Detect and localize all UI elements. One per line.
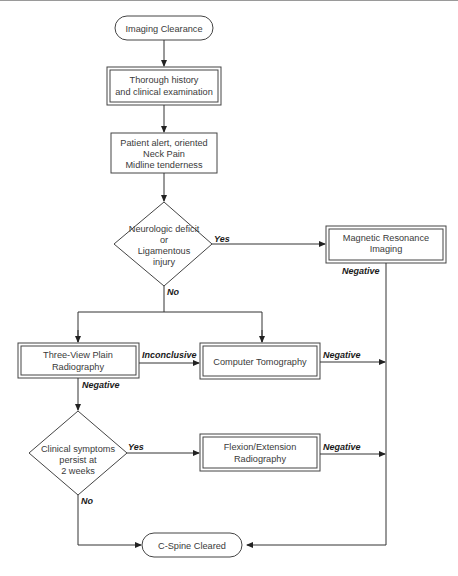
xray-node: Three-View Plain Radiography [18, 343, 139, 378]
decision2-node: Clinical symptoms persist at 2 weeks [29, 411, 127, 495]
ct-negative-label: Negative [323, 350, 361, 360]
decision2-line-1: Clinical symptoms [41, 444, 115, 454]
ct-label: Computer Tomography [213, 357, 307, 367]
decision1-line-3: Ligamentous [138, 246, 191, 256]
decision1-no-label: No [167, 287, 179, 297]
xray-line-1: Three-View Plain [43, 350, 113, 360]
history-node: Thorough history and clinical examinatio… [107, 67, 221, 105]
mri-node: Magnetic Resonance Imaging [326, 226, 446, 263]
xray-line-2: Radiography [52, 362, 105, 372]
edge-split-xray-ct [78, 312, 262, 342]
decision2-yes-label: Yes [128, 442, 144, 452]
mri-line-1: Magnetic Resonance [343, 233, 429, 243]
decision1-line-4: injury [153, 257, 175, 267]
mri-line-2: Imaging [370, 244, 403, 254]
history-line-2: and clinical examination [115, 87, 213, 97]
flexion-negative-label: Negative [323, 442, 361, 452]
flexion-node: Flexion/Extension Radiography [200, 434, 320, 471]
decision2-no-label: No [81, 496, 93, 506]
xray-inconclusive-label: Inconclusive [142, 350, 197, 360]
decision2-line-3: 2 weeks [61, 466, 95, 476]
decision1-yes-label: Yes [214, 234, 230, 244]
decision1-line-2: or [160, 235, 168, 245]
ct-node: Computer Tomography [200, 343, 320, 379]
start-label: Imaging Clearance [125, 24, 202, 34]
start-node: Imaging Clearance [115, 16, 213, 40]
end-label: C-Spine Cleared [158, 541, 226, 551]
decision2-line-2: persist at [59, 455, 97, 465]
xray-negative-label: Negative [82, 380, 120, 390]
end-node: C-Spine Cleared [142, 533, 242, 557]
decision1-node: Neurologic deficit or Ligamentous injury [114, 202, 212, 286]
flexion-line-2: Radiography [234, 454, 287, 464]
criteria-line-1: Patient alert, oriented [120, 138, 207, 148]
flexion-line-1: Flexion/Extension [224, 442, 297, 452]
criteria-node: Patient alert, oriented Neck Pain Midlin… [111, 133, 217, 173]
criteria-line-3: Midline tenderness [125, 160, 203, 170]
mri-negative-label: Negative [342, 266, 380, 276]
flowchart: Imaging Clearance Thorough history and c… [0, 0, 458, 576]
history-line-1: Thorough history [130, 75, 199, 85]
decision1-line-1: Neurologic deficit [129, 224, 200, 234]
edge-mri-end [247, 263, 386, 545]
criteria-line-2: Neck Pain [143, 149, 185, 159]
